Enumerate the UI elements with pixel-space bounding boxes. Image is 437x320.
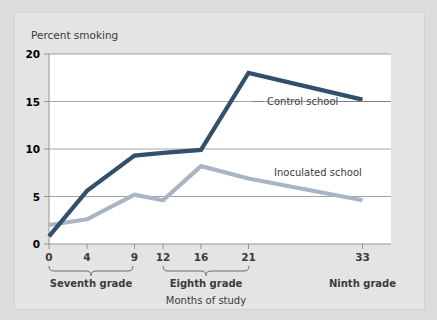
y-axis-title: Percent smoking: [31, 29, 118, 41]
x-tick-label-0: 0: [45, 251, 52, 263]
chart-card: Percent smoking 20 15 10 5 0: [14, 12, 425, 310]
x-tick-label-9: 9: [131, 251, 138, 263]
group-label-seventh-grade: Seventh grade: [50, 278, 133, 289]
x-tick-label-21: 21: [241, 251, 256, 263]
series-label-control-school: Control school: [267, 96, 338, 107]
y-tick-label-10: 10: [25, 143, 40, 155]
x-axis-caption: Months of study: [166, 295, 246, 306]
y-tick-label-20: 20: [25, 48, 40, 60]
brace-seventh-grade: [49, 266, 133, 276]
x-tick-label-16: 16: [194, 251, 209, 263]
brace-eighth-grade: [163, 266, 249, 276]
y-tick-label-15: 15: [25, 96, 40, 108]
y-tick-marks: [44, 54, 49, 244]
y-tick-labels: 20 15 10 5 0: [25, 48, 40, 250]
y-tick-label-0: 0: [33, 238, 40, 250]
group-label-ninth-grade: Ninth grade: [329, 278, 396, 289]
smoking-line-chart: Percent smoking 20 15 10 5 0: [15, 13, 424, 309]
x-tick-label-33: 33: [355, 251, 370, 263]
x-tick-marks: [49, 244, 363, 249]
x-tick-label-4: 4: [83, 251, 90, 263]
series-label-inoculated-school: Inoculated school: [274, 167, 362, 178]
y-tick-label-5: 5: [33, 191, 40, 203]
x-tick-labels: 0 4 9 12 16 21 33: [45, 251, 369, 263]
x-tick-label-12: 12: [156, 251, 171, 263]
group-label-eighth-grade: Eighth grade: [170, 278, 243, 289]
